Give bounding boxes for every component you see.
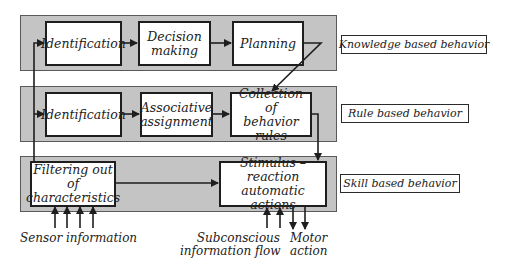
box-text-line-2: automatic actions xyxy=(221,184,325,212)
filtering-characteristics-box: Filtering out of characteristics xyxy=(30,161,116,207)
subconscious-information-flow-caption: Subconscious information flow xyxy=(180,232,280,258)
box-text-line-2: behavior rules xyxy=(232,115,310,143)
sensor-information-caption: Sensor information xyxy=(20,232,137,245)
rule-identification-box: Identification xyxy=(45,92,122,137)
caption-line-2: action xyxy=(290,245,326,258)
box-text: Planning xyxy=(240,37,296,51)
collection-of-behavior-rules-box: Collection of behavior rules xyxy=(230,92,312,137)
rule-based-behavior-label: Rule based behavior xyxy=(341,104,469,123)
knowledge-identification-box: Identification xyxy=(45,21,122,66)
box-text-line-1: Filtering out of xyxy=(32,163,114,191)
motor-action-caption: Motor action xyxy=(290,232,326,258)
box-text-line-1: Decision xyxy=(147,30,201,44)
skill-based-behavior-label: Skill based behavior xyxy=(340,174,460,193)
planning-box: Planning xyxy=(232,21,304,66)
caption-line-2: information flow xyxy=(180,245,280,258)
decision-making-box: Decision making xyxy=(138,21,211,66)
box-text-line-2: characteristics xyxy=(26,191,120,205)
stimulus-reaction-box: Stimulus – reaction automatic actions xyxy=(219,161,327,207)
box-text-line-1: Associative xyxy=(141,101,212,115)
box-text-line-2: making xyxy=(151,44,198,58)
box-text-line-2: assignment xyxy=(140,115,213,129)
box-text: Identification xyxy=(41,108,126,122)
knowledge-based-behavior-label: Knowledge based behavior xyxy=(341,35,487,54)
box-text: Identification xyxy=(41,37,126,51)
box-text-line-1: Collection of xyxy=(232,87,310,115)
associative-assignment-box: Associative assignment xyxy=(140,92,213,137)
box-text-line-1: Stimulus – reaction xyxy=(221,156,325,184)
